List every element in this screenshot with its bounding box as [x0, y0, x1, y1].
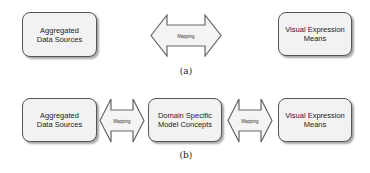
mapping-label: Mapping [227, 118, 273, 123]
visual-expression-means-label: Visual Expression Means [281, 25, 349, 43]
aggregated-data-sources-label: Aggregated Data Sources [34, 26, 86, 44]
mapping-double-arrow-icon-left: Mapping [99, 98, 145, 143]
mapping-double-arrow-icon: Mapping [150, 14, 222, 57]
mapping-label: Mapping [150, 33, 222, 38]
domain-specific-model-concepts-label: Domain Specific Model Concepts [153, 111, 217, 129]
mapping-double-arrow-icon-right: Mapping [227, 98, 273, 143]
visual-expression-means-label: Visual Expression Means [281, 111, 349, 129]
caption-a: (a) [180, 66, 192, 76]
aggregated-data-sources-label: Aggregated Data Sources [34, 111, 86, 129]
mapping-label: Mapping [99, 118, 145, 123]
visual-expression-means-box-a: Visual Expression Means [278, 12, 352, 56]
domain-specific-model-concepts-box: Domain Specific Model Concepts [148, 98, 222, 142]
visual-expression-means-box-b: Visual Expression Means [278, 98, 352, 142]
aggregated-data-sources-box-a: Aggregated Data Sources [22, 12, 97, 57]
caption-b: (b) [180, 150, 193, 160]
aggregated-data-sources-box-b: Aggregated Data Sources [22, 98, 97, 142]
